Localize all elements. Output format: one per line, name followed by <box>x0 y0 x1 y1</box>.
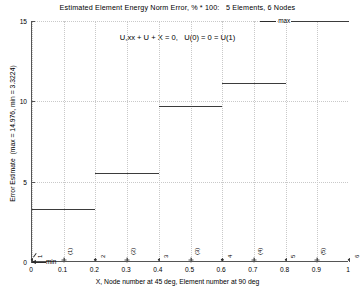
x-tick-label: 0.8 <box>280 266 289 273</box>
element-label: (4) <box>257 248 263 255</box>
y-axis-label: Error Estimate (max = 14.976, min = 3.32… <box>9 34 16 234</box>
step-segment <box>95 173 158 174</box>
x-tick-label: 0.9 <box>312 266 321 273</box>
x-tick-label: 0.3 <box>122 266 131 273</box>
element-label: (3) <box>194 248 200 255</box>
vertical-gridline <box>64 21 65 261</box>
max-annotation-label: max <box>278 17 291 24</box>
step-segment <box>32 209 95 210</box>
element-label: (2) <box>130 248 136 255</box>
chart-title: Estimated Element Energy Norm Error, % *… <box>0 3 355 12</box>
x-tick-label: 1 <box>346 266 350 273</box>
y-tick-mark <box>31 21 35 22</box>
element-marker <box>251 258 256 263</box>
horizontal-gridline <box>32 101 348 102</box>
x-tick-label: 0.2 <box>90 266 99 273</box>
vertical-gridline <box>317 21 318 261</box>
element-marker <box>125 258 130 263</box>
node-label: 5 <box>290 255 296 258</box>
gridlines <box>32 21 348 261</box>
x-tick-label: 0 <box>29 266 33 273</box>
element-label: (1) <box>67 248 73 255</box>
y-tick-label: 0 <box>9 259 27 266</box>
vertical-gridline <box>32 21 33 261</box>
min-arrow-head <box>31 260 36 264</box>
plot-area: max 123456(1)(2)(3)(4)(5)min <box>31 21 348 262</box>
x-tick-label: 0.6 <box>217 266 226 273</box>
vertical-gridline <box>286 21 287 261</box>
y-tick-mark <box>31 182 35 183</box>
x-axis-label: X, Node number at 45 deg, Element number… <box>0 278 355 285</box>
y-tick-mark <box>31 101 35 102</box>
vertical-gridline <box>127 21 128 261</box>
vertical-gridline <box>95 21 96 261</box>
max-arrow-line <box>260 21 276 22</box>
min-annotation-label: min <box>46 258 56 265</box>
vertical-gridline <box>191 21 192 261</box>
node-label: 6 <box>354 255 360 258</box>
step-segment <box>159 106 222 107</box>
node-label: 3 <box>163 255 169 258</box>
horizontal-gridline <box>32 182 348 183</box>
element-marker <box>188 258 193 263</box>
x-tick-label: 0.5 <box>185 266 194 273</box>
vertical-gridline <box>222 21 223 261</box>
step-segment <box>222 83 285 84</box>
node-label: 1 <box>37 255 43 258</box>
element-label: (5) <box>320 248 326 255</box>
node-label: 2 <box>100 255 106 258</box>
node-label: 4 <box>227 255 233 258</box>
element-marker <box>61 258 66 263</box>
x-tick-label: 0.4 <box>153 266 162 273</box>
x-tick-label: 0.1 <box>58 266 67 273</box>
vertical-gridline <box>159 21 160 261</box>
y-tick-label: 15 <box>9 18 27 25</box>
vertical-gridline <box>254 21 255 261</box>
step-segment <box>286 21 349 22</box>
x-tick-label: 0.7 <box>248 266 257 273</box>
element-marker <box>315 258 320 263</box>
